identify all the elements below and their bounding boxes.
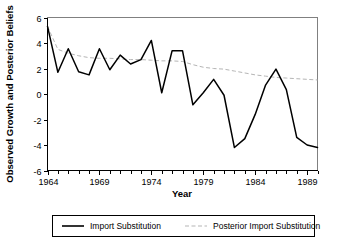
y-tick-label: -6 [33,167,41,177]
y-tick-label: -2 [33,116,41,126]
legend-label-posterior-import-substitution: Posterior Import Substitution [213,221,321,231]
x-tick-label: 1989 [297,177,317,187]
chart-svg: -6-4-20246 196419691974197919841989 Obse… [0,0,338,248]
x-tick-label: 1969 [89,177,109,187]
x-tick-label: 1979 [193,177,213,187]
chart-figure: -6-4-20246 196419691974197919841989 Obse… [0,0,338,248]
y-tick-label: 6 [36,14,41,24]
y-tick-label: 4 [36,39,41,49]
x-axis-ticks [49,171,308,176]
y-tick-label: -4 [33,141,41,151]
legend-label-import-substitution: Import Substitution [90,221,161,231]
chart-legend: Import Substitution Posterior Import Sub… [53,216,321,237]
x-axis-title: Year [172,188,192,199]
y-tick-label: 2 [36,65,41,75]
series-layer [48,26,318,147]
y-tick-label: 0 [36,90,41,100]
y-axis-ticks [44,19,48,172]
x-axis-tick-labels: 196419691974197919841989 [38,177,317,187]
x-tick-label: 1964 [38,177,58,187]
series-import-substitution [48,26,318,147]
x-tick-label: 1984 [245,177,265,187]
plot-area-border [48,18,318,171]
y-axis-title: Observed Growth and Posterior Beliefs [4,5,15,182]
x-tick-label: 1974 [141,177,161,187]
y-axis-tick-labels: -6-4-20246 [33,14,41,177]
